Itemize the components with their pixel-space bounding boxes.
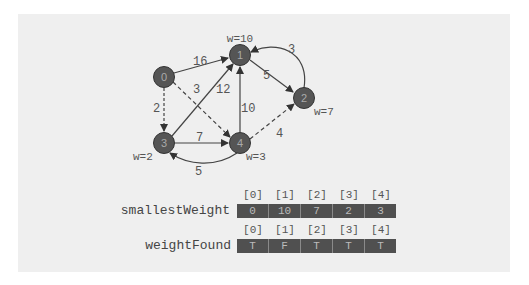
edge-1-2: 5 [250,60,293,92]
index-label: [1] [269,224,301,236]
index-label: [4] [365,224,397,236]
index-label: [2] [301,224,333,236]
index-label: [2] [301,189,333,201]
weight-found-label: weightFound [111,238,231,253]
svg-text:w=2: w=2 [133,151,153,163]
svg-text:w=3: w=3 [246,151,266,163]
index-label: [3] [333,224,365,236]
edge-3-4: 7 [175,131,228,145]
array-cell: 2 [333,204,365,218]
array-cell: 10 [269,204,301,218]
node-0: 0 [154,67,175,88]
index-label: [4] [365,189,397,201]
svg-text:3: 3 [161,137,167,149]
svg-text:16: 16 [193,55,207,69]
svg-text:5: 5 [263,69,270,83]
node-2: 2 w=7 [294,88,334,119]
array-cell: T [301,239,333,253]
svg-text:3: 3 [288,43,295,57]
node-3: 3 w=2 [133,133,175,164]
index-label: [3] [333,189,365,201]
edge-4-2: 4 [250,104,294,141]
svg-text:w=10: w=10 [227,33,253,45]
edge-4-1: 10 [240,67,255,132]
array-cell: T [365,239,396,253]
array-cell: T [237,239,269,253]
edge-4-3: 5 [170,153,237,179]
weight-found-indices: [0] [1] [2] [3] [4] [237,224,397,236]
svg-text:5: 5 [195,165,202,179]
index-label: [0] [237,189,269,201]
node-1: 1 w=10 [227,33,253,66]
svg-text:7: 7 [196,131,203,145]
svg-text:2: 2 [153,102,160,116]
svg-text:w=7: w=7 [314,106,334,118]
svg-text:2: 2 [301,92,307,104]
index-label: [1] [269,189,301,201]
array-cell: 7 [301,204,333,218]
node-4: 4 w=3 [230,133,266,164]
svg-text:0: 0 [161,71,167,83]
array-cell: 3 [365,204,396,218]
smallest-weight-label: smallestWeight [110,203,230,218]
smallest-weight-indices: [0] [1] [2] [3] [4] [237,189,397,201]
index-label: [0] [237,224,269,236]
array-cell: F [269,239,301,253]
edge-3-1: 12 [172,64,233,136]
smallest-weight-array: 0 10 7 2 3 [237,204,396,218]
svg-text:10: 10 [241,102,255,116]
svg-text:4: 4 [237,137,243,149]
array-cell: 0 [237,204,269,218]
edge-0-3: 2 [153,88,164,131]
weight-found-array: T F T T T [237,239,396,253]
array-cell: T [333,239,365,253]
edge-0-1: 16 [174,55,228,73]
svg-text:3: 3 [193,83,200,97]
svg-text:12: 12 [216,83,230,97]
svg-text:4: 4 [276,127,283,141]
svg-text:1: 1 [237,49,243,61]
